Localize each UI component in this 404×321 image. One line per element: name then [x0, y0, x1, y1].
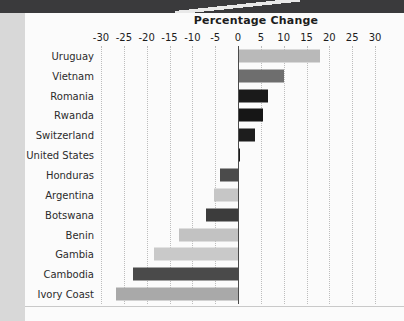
header-diagonal-decoration: [175, 0, 300, 13]
bar-ivory-coast: [116, 288, 238, 301]
category-label-vietnam: Vietnam: [52, 70, 94, 81]
category-label-united-states: United States: [26, 150, 94, 161]
x-tick-neg5: -5: [210, 32, 220, 43]
x-tick-10: 10: [277, 32, 290, 43]
x-tick-neg30: -30: [93, 32, 109, 43]
bar-honduras: [220, 168, 238, 181]
x-tick-neg25: -25: [116, 32, 132, 43]
bottom-divider: [25, 306, 404, 307]
bar-uruguay: [238, 49, 320, 62]
x-axis-tick-labels: -30-25-20-15-10-5051015202530: [101, 32, 375, 45]
zero-axis-line: [238, 46, 239, 304]
bar-botswana: [206, 208, 238, 221]
bar-gambia: [154, 248, 238, 261]
category-label-honduras: Honduras: [46, 169, 94, 180]
category-label-gambia: Gambia: [55, 249, 94, 260]
left-margin-strip: [0, 13, 25, 321]
category-label-argentina: Argentina: [45, 189, 94, 200]
category-label-botswana: Botswana: [45, 209, 94, 220]
page-header-band: [0, 0, 404, 13]
bar-benin: [179, 228, 238, 241]
chart-page: Percentage Change -30-25-20-15-10-505101…: [0, 0, 404, 321]
category-label-romania: Romania: [50, 90, 94, 101]
bar-vietnam: [238, 69, 284, 82]
gridline: [375, 46, 376, 304]
chart-title: Percentage Change: [186, 14, 326, 27]
x-tick-30: 30: [369, 32, 382, 43]
category-label-uruguay: Uruguay: [52, 50, 95, 61]
plot-area: UruguayVietnamRomaniaRwandaSwitzerlandUn…: [101, 46, 375, 304]
category-label-rwanda: Rwanda: [54, 110, 94, 121]
x-tick-20: 20: [323, 32, 336, 43]
bar-argentina: [214, 188, 238, 201]
x-tick-neg10: -10: [184, 32, 200, 43]
category-label-switzerland: Switzerland: [36, 130, 94, 141]
x-tick-0: 0: [235, 32, 241, 43]
category-label-ivory-coast: Ivory Coast: [37, 289, 94, 300]
bar-cambodia: [133, 268, 238, 281]
x-tick-neg20: -20: [138, 32, 154, 43]
x-tick-5: 5: [258, 32, 264, 43]
x-tick-25: 25: [346, 32, 359, 43]
bar-romania: [238, 89, 268, 102]
x-tick-15: 15: [300, 32, 313, 43]
category-label-cambodia: Cambodia: [43, 269, 94, 280]
bar-rwanda: [238, 109, 263, 122]
category-label-benin: Benin: [66, 229, 94, 240]
bar-switzerland: [238, 129, 255, 142]
x-tick-neg15: -15: [161, 32, 177, 43]
